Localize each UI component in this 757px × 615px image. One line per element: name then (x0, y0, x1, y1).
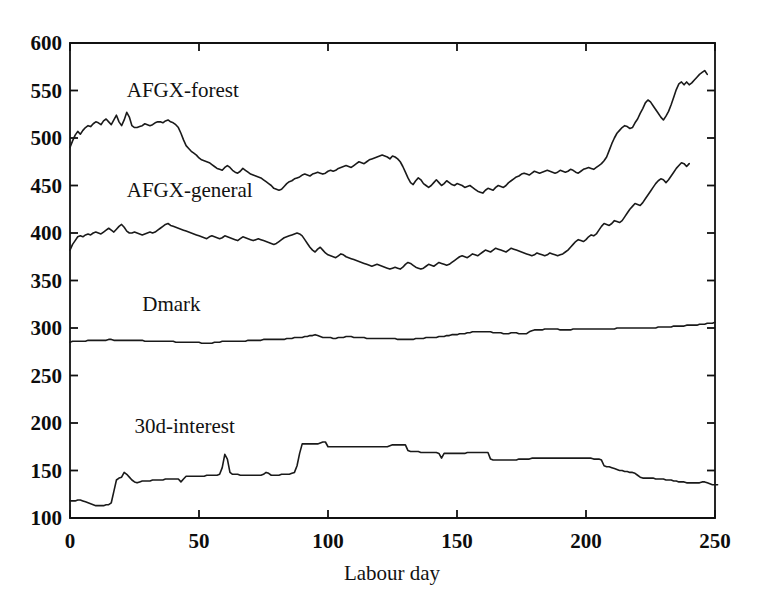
series-line-dmark (70, 322, 715, 343)
y-tick-label: 250 (31, 364, 63, 388)
y-tick-label: 500 (31, 126, 63, 150)
y-tick-label: 200 (31, 411, 63, 435)
x-tick-label: 50 (189, 529, 210, 553)
x-tick-label: 250 (699, 529, 731, 553)
line-chart-svg: 100150200250300350400450500550600 050100… (0, 0, 757, 615)
axis-frame (70, 43, 715, 518)
series-label-afgx-general: AFGX-general (127, 178, 253, 202)
y-tick-label: 400 (31, 221, 63, 245)
y-tick-label: 550 (31, 79, 63, 103)
axis-tick-marks (70, 43, 715, 518)
x-tick-label: 150 (441, 529, 473, 553)
y-tick-label: 100 (31, 506, 63, 530)
x-tick-label: 200 (570, 529, 602, 553)
y-tick-label: 350 (31, 269, 63, 293)
x-axis-title: Labour day (344, 561, 441, 585)
series-label-afgx-forest: AFGX-forest (127, 78, 239, 102)
chart-figure: 100150200250300350400450500550600 050100… (0, 0, 757, 615)
series-label-dmark: Dmark (142, 292, 201, 316)
x-axis-tick-labels: 050100150200250 (65, 529, 731, 553)
x-tick-label: 100 (312, 529, 344, 553)
data-series-group (70, 71, 718, 506)
series-inline-labels: AFGX-forestAFGX-generalDmark30d-interest (127, 78, 253, 437)
y-tick-label: 300 (31, 316, 63, 340)
y-axis-tick-labels: 100150200250300350400450500550600 (31, 31, 63, 530)
y-tick-label: 150 (31, 459, 63, 483)
y-tick-label: 600 (31, 31, 63, 55)
y-tick-label: 450 (31, 174, 63, 198)
series-label-30d-interest: 30d-interest (135, 414, 235, 438)
x-tick-label: 0 (65, 529, 76, 553)
series-line-30d-interest (70, 442, 718, 506)
